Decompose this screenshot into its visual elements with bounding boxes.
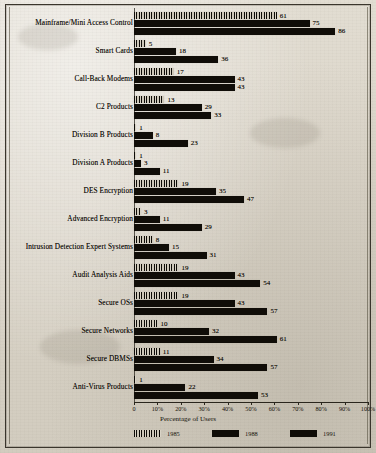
x-tick-label: 70% xyxy=(292,405,303,412)
category-label: Smart Cards xyxy=(96,46,133,55)
bar-1988-8 xyxy=(134,244,169,251)
bar-value-label: 36 xyxy=(221,55,228,63)
bar-1991-10 xyxy=(134,308,267,315)
bar-value-label: 1 xyxy=(139,376,143,384)
legend-swatch-icon xyxy=(290,430,317,437)
bar-value-label: 54 xyxy=(263,279,270,287)
x-tick-label: 80% xyxy=(316,405,327,412)
x-tick-label: 90% xyxy=(339,405,350,412)
bar-value-label: 22 xyxy=(188,383,195,391)
bar-1985-7 xyxy=(134,208,141,215)
bar-1985-0 xyxy=(134,12,277,19)
bar-value-label: 86 xyxy=(338,27,345,35)
category-label: Intrusion Detection Expert Systems xyxy=(26,242,133,251)
bar-1985-1 xyxy=(134,40,146,47)
x-tick-label: 40% xyxy=(222,405,233,412)
bar-value-label: 3 xyxy=(144,159,148,167)
bar-1988-2 xyxy=(134,76,235,83)
bar-value-label: 5 xyxy=(149,40,153,48)
bar-value-label: 19 xyxy=(181,180,188,188)
bar-value-label: 17 xyxy=(177,68,184,76)
bar-1988-1 xyxy=(134,48,176,55)
bar-value-label: 43 xyxy=(238,299,245,307)
bar-1988-11 xyxy=(134,328,209,335)
bar-1985-3 xyxy=(134,96,164,103)
x-tick-label: 50% xyxy=(245,405,256,412)
bar-1988-7 xyxy=(134,216,160,223)
bar-value-label: 11 xyxy=(163,215,170,223)
bar-value-label: 33 xyxy=(214,111,221,119)
bar-1991-5 xyxy=(134,168,160,175)
bar-1985-9 xyxy=(134,264,178,271)
bar-1985-10 xyxy=(134,292,178,299)
bar-value-label: 32 xyxy=(212,327,219,335)
bar-value-label: 8 xyxy=(156,131,160,139)
legend-label: 1991 xyxy=(323,430,336,437)
bar-1988-10 xyxy=(134,300,235,307)
category-label: Secure OSs xyxy=(98,298,133,307)
bar-1985-5 xyxy=(134,152,136,159)
category-label: Call-Back Modems xyxy=(74,74,133,83)
bar-value-label: 34 xyxy=(217,355,224,363)
bar-1991-1 xyxy=(134,56,218,63)
bar-value-label: 19 xyxy=(181,264,188,272)
bar-1985-13 xyxy=(134,376,136,383)
bar-1991-13 xyxy=(134,392,258,399)
bar-1988-12 xyxy=(134,356,214,363)
category-label: DES Encryption xyxy=(84,186,133,195)
category-label: Division B Products xyxy=(72,130,133,139)
bar-1988-5 xyxy=(134,160,141,167)
bar-value-label: 57 xyxy=(270,307,277,315)
bar-value-label: 61 xyxy=(280,12,287,20)
bar-1985-11 xyxy=(134,320,157,327)
plot-area: 6175865183617434313293318231311193547311… xyxy=(0,0,376,453)
legend-label: 1988 xyxy=(245,430,258,437)
bar-value-label: 23 xyxy=(191,139,198,147)
bar-1985-12 xyxy=(134,348,160,355)
chart-figure: 6175865183617434313293318231311193547311… xyxy=(0,0,376,453)
bar-1988-3 xyxy=(134,104,202,111)
bar-value-label: 8 xyxy=(156,236,160,244)
category-label: Audit Analysis Aids xyxy=(72,270,133,279)
bar-value-label: 29 xyxy=(205,103,212,111)
bar-value-label: 19 xyxy=(181,292,188,300)
bar-1988-9 xyxy=(134,272,235,279)
bar-1985-8 xyxy=(134,236,153,243)
x-tick-label: 100% xyxy=(361,405,375,412)
bar-value-label: 1 xyxy=(139,152,143,160)
bar-value-label: 43 xyxy=(238,83,245,91)
legend: 198519881991 xyxy=(134,430,368,442)
bar-1988-0 xyxy=(134,20,310,27)
bar-1988-13 xyxy=(134,384,185,391)
category-label: C2 Products xyxy=(96,102,133,111)
bar-value-label: 18 xyxy=(179,47,186,55)
bar-value-label: 75 xyxy=(313,19,320,27)
bar-value-label: 43 xyxy=(238,75,245,83)
bar-value-label: 43 xyxy=(238,271,245,279)
x-tick-label: 0 xyxy=(132,405,135,412)
x-axis-title: Percentage of Users xyxy=(0,415,376,423)
category-label: Secure Networks xyxy=(81,326,133,335)
x-tick-label: 10% xyxy=(152,405,163,412)
x-tick-label: 30% xyxy=(199,405,210,412)
bar-1991-9 xyxy=(134,280,260,287)
x-tick-label: 20% xyxy=(175,405,186,412)
bar-value-label: 13 xyxy=(167,96,174,104)
legend-swatch-icon xyxy=(212,430,239,437)
bar-1991-11 xyxy=(134,336,277,343)
category-label: Advanced Encryption xyxy=(67,214,133,223)
legend-label: 1985 xyxy=(167,430,180,437)
bar-value-label: 61 xyxy=(280,335,287,343)
bar-value-label: 47 xyxy=(247,195,254,203)
category-label: Division A Products xyxy=(72,158,133,167)
bar-value-label: 31 xyxy=(210,251,217,259)
category-label: Anti-Virus Products xyxy=(73,382,133,391)
bar-value-label: 35 xyxy=(219,187,226,195)
bar-value-label: 15 xyxy=(172,243,179,251)
legend-swatch-icon xyxy=(134,430,161,437)
bar-1988-6 xyxy=(134,188,216,195)
bar-1991-4 xyxy=(134,140,188,147)
bar-1985-6 xyxy=(134,180,178,187)
category-label: Mainframe/Mini Access Control xyxy=(35,18,133,27)
bar-1991-0 xyxy=(134,28,335,35)
